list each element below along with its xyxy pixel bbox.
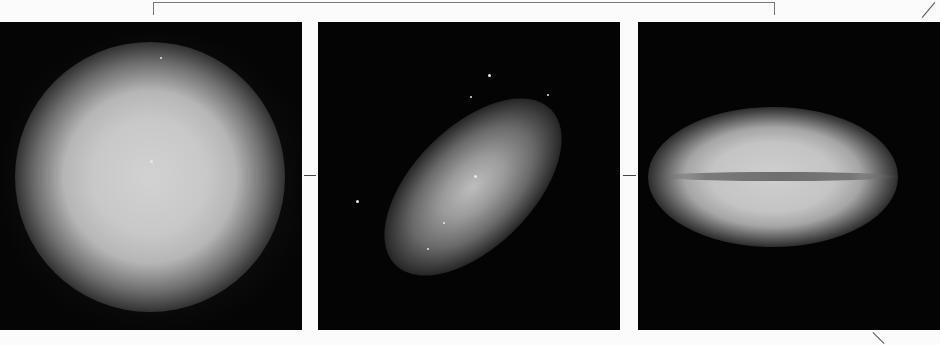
star bbox=[356, 200, 359, 203]
star bbox=[488, 74, 491, 77]
dust-lane bbox=[658, 172, 898, 181]
corner-mark-top bbox=[922, 2, 936, 18]
panel-edge-on-galaxy bbox=[638, 22, 940, 330]
panel-inclined-galaxy bbox=[318, 22, 620, 330]
star bbox=[427, 248, 429, 250]
inclined-galaxy-image bbox=[353, 67, 593, 307]
panel-round-galaxy bbox=[0, 22, 302, 330]
round-galaxy-image bbox=[15, 42, 285, 312]
star bbox=[547, 94, 549, 96]
corner-mark-bottom bbox=[872, 332, 884, 344]
star bbox=[150, 160, 153, 163]
star bbox=[443, 222, 445, 224]
star bbox=[160, 57, 162, 59]
star bbox=[470, 96, 472, 98]
connector-tick-1 bbox=[304, 175, 316, 176]
top-bracket bbox=[153, 2, 775, 15]
connector-tick-2 bbox=[623, 175, 636, 176]
star bbox=[474, 175, 477, 178]
